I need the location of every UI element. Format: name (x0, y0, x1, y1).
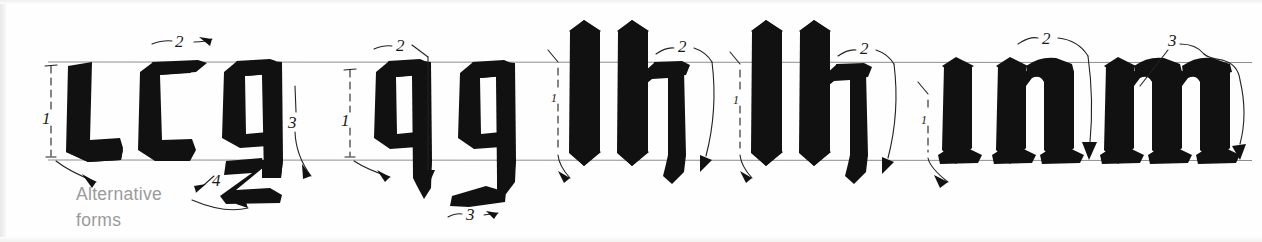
annotation-label-1c: 1 (551, 91, 557, 105)
letter-l-ascender-2 (751, 20, 783, 166)
letter-g-alt (220, 59, 283, 204)
guideline-x-height (48, 62, 1252, 63)
letter-l-ascender-1 (569, 20, 601, 166)
annotation-label-2a: 2 (175, 32, 184, 51)
annotation-height-1-lh2: 1 (730, 52, 752, 183)
annotation-label-3c: 3 (1167, 31, 1177, 50)
annotation-label-4a: 4 (212, 171, 221, 190)
group-qg: 1 2 3 (341, 36, 516, 224)
annotation-label-1b: 1 (341, 111, 350, 130)
annotation-stroke-3-qg: 3 (448, 205, 498, 224)
annotation-label-2d: 2 (860, 39, 869, 58)
annotation-height-1-lh1: 1 (548, 50, 570, 183)
annotation-label-1a: 1 (42, 109, 51, 128)
letter-c-alt (138, 60, 207, 161)
letter-l-alt (66, 62, 123, 162)
annotation-stroke-3-lcg: 3 (287, 86, 311, 179)
annotation-label-3b: 3 (465, 205, 475, 224)
annotation-label-2c: 2 (678, 37, 687, 56)
calligraphy-plate: 1 2 3 (0, 0, 1262, 242)
group-lh-2: 1 2 (730, 20, 896, 184)
letter-n (992, 57, 1084, 164)
annotation-label-3a: 3 (287, 113, 297, 132)
letter-m (1100, 57, 1240, 164)
annotation-label-2e: 2 (1042, 29, 1051, 48)
caption-line-1: Alternative (76, 184, 162, 204)
annotation-label-1d: 1 (733, 93, 739, 107)
annotation-height-1: 1 (42, 65, 57, 157)
group-lh-1: 1 2 (548, 20, 714, 184)
annotation-label-2b: 2 (396, 36, 405, 55)
caption-line-2: forms (76, 210, 121, 230)
annotation-label-1e: 1 (921, 113, 927, 127)
group-inm: 1 2 3 (918, 29, 1246, 188)
caption-alternative-forms: Alternative forms (76, 184, 162, 230)
annotation-height-1-qg: 1 (341, 69, 356, 157)
letter-i (938, 57, 982, 164)
letter-g (450, 60, 516, 207)
letterform-artwork: 1 2 3 (0, 0, 1262, 242)
annotation-stroke-2-lcg: 2 (152, 32, 212, 51)
